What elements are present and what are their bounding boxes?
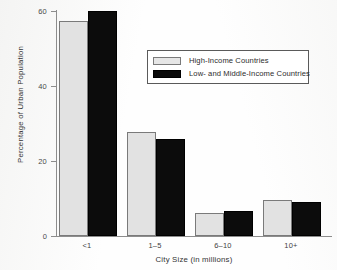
y-axis-title: Percentage of Urban Population (16, 30, 25, 180)
bar-high-income-lt1 (59, 21, 88, 236)
y-tick-mark-40 (51, 86, 56, 87)
x-tick-label-lt1: <1 (59, 241, 115, 250)
legend-label-high-income: High-Income Countries (189, 56, 269, 65)
bar-low-middle-income-10plus (292, 202, 321, 236)
legend-entry-high-income: High-Income Countries (153, 55, 303, 66)
bar-high-income-6to10 (195, 213, 224, 236)
y-tick-mark-60 (51, 11, 56, 12)
y-tick-label-0: 0 (13, 232, 47, 241)
bar-low-middle-income-lt1 (88, 11, 117, 236)
y-tick-mark-20 (51, 161, 56, 162)
x-tick-label-1to5: 1–5 (127, 241, 183, 250)
legend-entry-low-middle-income: Low- and Middle-Income Countries (153, 68, 303, 79)
plot-area: High-Income Countries Low- and Middle-In… (57, 11, 331, 236)
bar-low-middle-income-6to10 (224, 211, 253, 236)
bar-chart-figure: 60 40 20 0 High-Income Countries Low- an… (0, 0, 337, 270)
x-axis-title: City Size (in millions) (56, 255, 332, 264)
x-tick-label-10plus: 10+ (263, 241, 319, 250)
y-tick-mark-0 (51, 236, 56, 237)
x-tick-label-6to10: 6–10 (195, 241, 251, 250)
legend-label-low-middle-income: Low- and Middle-Income Countries (189, 69, 310, 78)
legend-swatch-light-gray (153, 57, 181, 65)
bar-low-middle-income-1to5 (156, 139, 185, 236)
bar-high-income-10plus (263, 200, 292, 236)
y-tick-label-60: 60 (13, 7, 47, 16)
x-axis-line (56, 236, 332, 237)
chart-legend: High-Income Countries Low- and Middle-In… (147, 50, 309, 84)
bar-high-income-1to5 (127, 132, 156, 236)
legend-swatch-black (153, 70, 181, 78)
